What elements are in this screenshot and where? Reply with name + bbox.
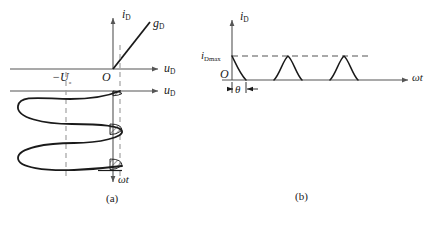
panel-b-peak-label: iDmax — [201, 50, 221, 62]
panel-a-u-axis-lower-label: uD — [164, 84, 175, 97]
figure-canvas — [0, 0, 433, 226]
panel-a-i-axis-label: iD — [122, 8, 131, 21]
panel-b-theta-label: θ — [235, 84, 240, 95]
panel-b-graphics — [222, 20, 408, 93]
panel-a-u-axis-top-label: uD — [164, 62, 175, 75]
figure-root: iD gD uD uD O −U₀ ωt (a) iD iDmax O θ ωt… — [0, 0, 433, 226]
panel-a-gd-label: gD — [153, 17, 164, 30]
panel-a-input-sine-wave — [18, 91, 122, 170]
panel-b-caption: (b) — [295, 190, 308, 202]
panel-a-origin-label: O — [102, 71, 111, 83]
panel-a-omega-t-label: ωt — [118, 174, 129, 185]
panel-b-i-axis-label: iD — [240, 10, 249, 23]
panel-a-gd-slope-line — [113, 22, 150, 69]
panel-a-graphics — [10, 18, 158, 182]
panel-b-current-pulse-2 — [274, 56, 302, 80]
panel-b-current-pulse-3 — [330, 56, 358, 80]
panel-a-bias-label: −U₀ — [52, 71, 71, 84]
panel-b-current-pulse-1 — [232, 56, 246, 80]
panel-b-omega-t-label: ωt — [412, 72, 423, 83]
panel-b-origin-label: O — [220, 68, 229, 80]
panel-a-caption: (a) — [106, 192, 118, 204]
